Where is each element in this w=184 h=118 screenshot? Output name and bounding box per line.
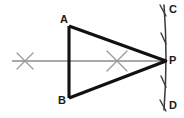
arc-endpoint-label-d: D: [169, 100, 177, 111]
geometry-drawing-canvas: [0, 0, 184, 118]
arc-endpoint-label-c: C: [169, 4, 177, 15]
vertex-label-a: A: [60, 14, 68, 25]
arc-main-curve: [164, 5, 166, 110]
vertex-label-p: P: [169, 55, 176, 66]
geometry-figure: A B C P D: [0, 0, 184, 118]
triangle-edge-ap: [69, 26, 166, 61]
triangle-edge-bp: [69, 61, 166, 98]
vertex-label-b: B: [58, 95, 66, 106]
vertex-point-p: [165, 60, 168, 63]
